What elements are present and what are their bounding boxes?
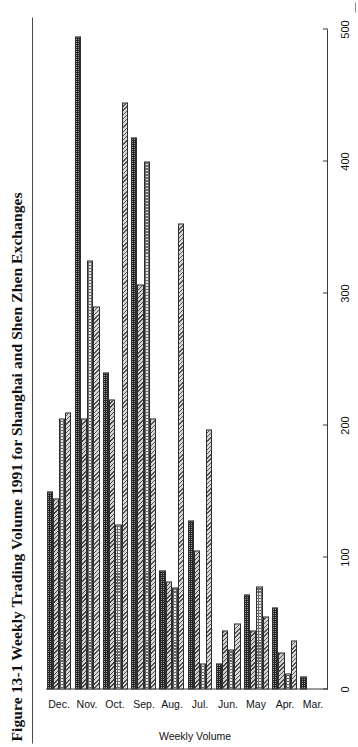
bar <box>53 498 59 689</box>
bar <box>81 418 87 689</box>
bar <box>263 616 269 689</box>
value-axis-tick <box>323 688 328 689</box>
category-label: Apr. <box>275 697 294 709</box>
value-axis-tick <box>323 292 328 293</box>
bar <box>93 306 99 689</box>
bar <box>59 418 65 689</box>
bar <box>109 399 115 689</box>
value-axis-tick-label: 200 <box>339 416 351 434</box>
rotated-page-canvas: Figure 13-1 Weekly Trading Volume 1991 f… <box>0 0 358 747</box>
bar <box>172 587 178 689</box>
bar <box>206 429 212 689</box>
bar <box>115 524 121 689</box>
category-label: Jul. <box>192 697 208 709</box>
value-axis-tick <box>323 28 328 29</box>
category-label: Aug. <box>161 697 183 709</box>
bar-chart-plot-area: 0100200300400500 Mar.Apr.MayJun.Jul.Aug.… <box>46 29 328 689</box>
bar <box>75 36 81 689</box>
bar <box>256 586 262 689</box>
value-axis-tick-label: 100 <box>339 548 351 566</box>
bar <box>300 676 306 689</box>
bar <box>228 649 234 689</box>
bar <box>87 260 93 689</box>
bar <box>131 137 137 689</box>
bar <box>103 372 109 689</box>
bar <box>291 640 297 689</box>
value-axis-tick-label: 400 <box>339 152 351 170</box>
value-axis-tick <box>323 424 328 425</box>
bar <box>222 630 228 689</box>
bar <box>47 491 53 689</box>
value-axis-tick <box>323 556 328 557</box>
bar <box>137 284 143 689</box>
bar <box>144 161 150 689</box>
figure-title: Figure 13-1 Weekly Trading Volume 1991 f… <box>8 192 26 741</box>
bar <box>216 663 222 689</box>
value-axis-line <box>327 29 328 689</box>
bar <box>250 630 256 689</box>
bar <box>166 581 172 689</box>
page-corner-mark <box>355 2 356 12</box>
value-axis-tick-label: 0 <box>339 686 351 692</box>
value-axis-tick-label: 500 <box>339 20 351 38</box>
category-label: May <box>246 697 266 709</box>
bar <box>178 223 184 689</box>
category-label: Dec. <box>48 697 70 709</box>
bar <box>194 550 200 689</box>
bar <box>285 673 291 689</box>
bar <box>234 623 240 689</box>
bar <box>200 663 206 689</box>
title-divider-rule <box>32 17 33 743</box>
bar <box>159 570 165 689</box>
category-label: Jun. <box>218 697 238 709</box>
value-axis-title: Weekly Volume <box>159 729 231 741</box>
category-label: Oct. <box>106 697 125 709</box>
category-label: Mar. <box>303 697 323 709</box>
bar <box>188 520 194 689</box>
bar <box>150 418 156 689</box>
bar <box>122 102 128 689</box>
value-axis-tick <box>323 160 328 161</box>
category-label: Nov. <box>77 697 98 709</box>
bar <box>278 652 284 689</box>
value-axis-tick-label: 300 <box>339 284 351 302</box>
bar <box>65 412 71 689</box>
category-label: Sep. <box>133 697 155 709</box>
bar <box>272 607 278 689</box>
bar <box>244 594 250 689</box>
